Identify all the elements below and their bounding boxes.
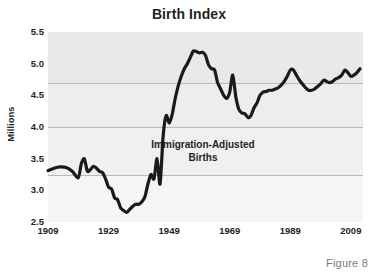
series-path-immigration-adjusted-births xyxy=(48,51,360,213)
annotation-line-2: Births xyxy=(118,151,288,164)
x-tick-label: 1989 xyxy=(268,226,312,236)
x-tick-label: 2009 xyxy=(329,226,373,236)
figure-container: Birth Index Millions 2.53.03.54.04.55.05… xyxy=(0,0,378,275)
plot-annotation: Immigration-Adjusted Births xyxy=(118,138,288,164)
annotation-line-1: Immigration-Adjusted xyxy=(118,138,288,151)
x-tick-label: 1949 xyxy=(147,226,191,236)
x-tick-label: 1909 xyxy=(26,226,70,236)
series-line-chart xyxy=(48,32,363,222)
x-tick-label: 1969 xyxy=(208,226,252,236)
x-tick-label: 1929 xyxy=(87,226,131,236)
figure-caption: Figure 8 xyxy=(326,257,368,269)
plot-area xyxy=(48,32,363,222)
